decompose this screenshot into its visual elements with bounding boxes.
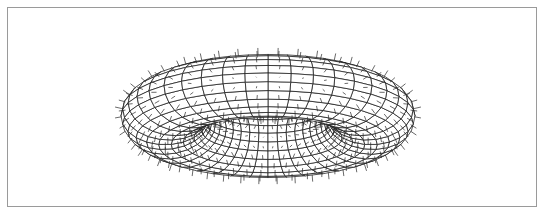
- normal-vector: [400, 144, 404, 150]
- normal-vector: [200, 53, 201, 60]
- normal-vector: [184, 57, 186, 64]
- torus-mesh: [115, 48, 421, 184]
- normal-vector: [334, 53, 335, 60]
- mesh-face: [255, 159, 268, 167]
- normal-vector: [115, 107, 122, 109]
- normal-vector: [328, 172, 329, 179]
- normal-vector: [343, 169, 344, 176]
- normal-vector: [223, 175, 224, 182]
- normal-vector: [298, 49, 299, 56]
- mesh-face: [268, 125, 278, 133]
- mesh-face: [249, 132, 259, 141]
- normal-vector: [414, 107, 421, 109]
- normal-vector: [394, 150, 398, 156]
- normal-vector: [131, 144, 135, 150]
- normal-vector: [376, 160, 378, 167]
- normal-vector: [169, 164, 171, 171]
- normal-vector: [115, 117, 122, 118]
- mesh-face: [268, 107, 287, 113]
- normal-vector: [218, 51, 219, 58]
- mesh-face: [258, 133, 268, 142]
- normal-vector: [385, 154, 388, 160]
- mesh-face: [268, 167, 283, 173]
- mesh-face: [268, 142, 278, 151]
- normal-vector: [280, 77, 281, 78]
- mesh-face: [268, 133, 278, 142]
- normal-vector: [256, 77, 257, 78]
- mesh-face: [223, 74, 246, 84]
- normal-vector: [384, 70, 388, 76]
- mesh-face: [258, 142, 268, 151]
- normal-vector: [207, 172, 208, 179]
- normal-vector: [120, 131, 126, 135]
- mesh-face: [258, 120, 268, 126]
- mesh-face: [256, 151, 268, 160]
- mesh-face: [268, 120, 278, 126]
- mesh-face: [277, 125, 287, 133]
- mesh-face: [245, 65, 268, 73]
- normal-vector: [364, 164, 366, 171]
- normal-vector: [312, 175, 313, 182]
- mesh-face: [268, 65, 291, 73]
- normal-vector: [130, 84, 135, 88]
- mesh-face: [258, 125, 268, 133]
- normal-vector: [272, 137, 273, 138]
- normal-vector: [238, 49, 239, 56]
- torus-wireframe: [0, 0, 545, 213]
- normal-vector: [414, 117, 421, 118]
- mesh-face: [286, 131, 295, 141]
- normal-vector: [148, 70, 152, 76]
- normal-vector: [158, 160, 160, 167]
- mesh-face: [249, 107, 268, 113]
- mesh-face: [277, 132, 287, 141]
- mesh-face: [268, 159, 281, 167]
- normal-vector: [411, 131, 417, 135]
- mesh-face: [291, 74, 314, 84]
- mesh-face: [268, 73, 291, 82]
- mesh-face: [253, 167, 268, 173]
- mesh-face: [249, 125, 259, 133]
- normal-vector: [372, 65, 375, 71]
- normal-vector: [192, 169, 193, 176]
- normal-vector: [263, 137, 264, 138]
- normal-vector: [138, 150, 142, 156]
- normal-vector: [317, 51, 318, 58]
- normal-vector: [148, 154, 151, 160]
- mesh-face: [240, 131, 249, 141]
- normal-vector: [350, 57, 352, 64]
- normal-vector: [400, 84, 405, 88]
- mesh-face: [245, 73, 268, 82]
- mesh-face: [268, 151, 280, 160]
- normal-vector: [161, 65, 164, 71]
